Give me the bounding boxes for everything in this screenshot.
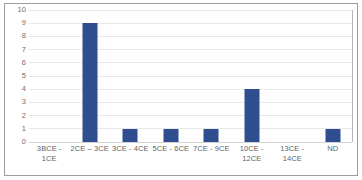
- bar-slot: [29, 10, 70, 142]
- y-axis-tick-label: 0: [22, 138, 26, 146]
- x-axis-category-label-line: 5CE - 6CE: [151, 144, 192, 154]
- x-axis-category-label-line: 14CE: [272, 154, 313, 164]
- y-axis-tick-label: 1: [22, 125, 26, 133]
- bar-slot: [272, 10, 313, 142]
- y-axis-tick-labels: 109876543210: [5, 10, 29, 142]
- bar[interactable]: [204, 129, 219, 142]
- y-axis-tick-label: 7: [22, 46, 26, 54]
- x-axis-category-label: 3CE - 4CE: [110, 144, 151, 154]
- bar[interactable]: [325, 129, 340, 142]
- bar[interactable]: [123, 129, 138, 142]
- bar[interactable]: [82, 23, 97, 142]
- y-axis-tick-label: 4: [22, 85, 26, 93]
- plot-area: [29, 10, 353, 142]
- y-axis-tick-label: 8: [22, 33, 26, 41]
- bar-slot: [110, 10, 151, 142]
- x-axis-category-label: 7CE - 9CE: [191, 144, 232, 154]
- x-axis-category-label-line: 2CE – 3CE: [70, 144, 111, 154]
- x-axis-category-label: ND: [313, 144, 354, 154]
- x-axis-category-labels: 3BCE - 1CE2CE – 3CE3CE - 4CE5CE - 6CE7CE…: [29, 144, 353, 176]
- x-axis-category-label-line: 10CE -: [232, 144, 273, 154]
- bar-slot: [313, 10, 354, 142]
- bar-slot: [151, 10, 192, 142]
- y-axis-tick-label: 10: [17, 6, 26, 14]
- bar[interactable]: [244, 89, 259, 142]
- x-axis-category-label-line: ND: [313, 144, 354, 154]
- chart-figure: 109876543210 3BCE - 1CE2CE – 3CE3CE - 4C…: [0, 0, 362, 180]
- x-axis-category-label-line: 3BCE - 1CE: [29, 144, 70, 164]
- x-axis-category-label-line: 12CE: [232, 154, 273, 164]
- bar-slot: [232, 10, 273, 142]
- y-axis-tick-label: 9: [22, 19, 26, 27]
- x-axis-category-label-line: 7CE - 9CE: [191, 144, 232, 154]
- bar[interactable]: [163, 129, 178, 142]
- bar-chart: 109876543210 3BCE - 1CE2CE – 3CE3CE - 4C…: [5, 4, 357, 176]
- plot-wrapper: 109876543210: [5, 10, 353, 142]
- y-axis-tick-label: 3: [22, 99, 26, 107]
- x-axis-category-label: 2CE – 3CE: [70, 144, 111, 154]
- x-axis-category-label: 5CE - 6CE: [151, 144, 192, 154]
- x-axis-category-label: 10CE -12CE: [232, 144, 273, 164]
- bar-slot: [191, 10, 232, 142]
- y-axis-tick-label: 2: [22, 112, 26, 120]
- bar-slot: [70, 10, 111, 142]
- x-axis-category-label-line: 3CE - 4CE: [110, 144, 151, 154]
- y-axis-tick-label: 6: [22, 59, 26, 67]
- x-axis-category-label: 3BCE - 1CE: [29, 144, 70, 164]
- bar-series: [29, 10, 352, 142]
- x-axis-category-label: 13CE -14CE: [272, 144, 313, 164]
- x-axis-category-label-line: 13CE -: [272, 144, 313, 154]
- y-axis-tick-label: 5: [22, 72, 26, 80]
